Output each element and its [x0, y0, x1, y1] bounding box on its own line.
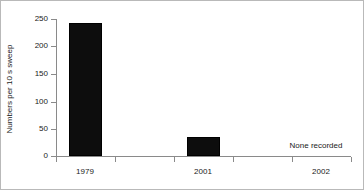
bar-1979	[69, 23, 102, 156]
y-axis-line	[56, 19, 57, 157]
x-tick-5	[351, 157, 352, 162]
y-tick-50	[51, 129, 56, 130]
y-tick-label-50: 50	[28, 125, 48, 133]
x-tick-4	[292, 157, 293, 162]
x-tick-label-2002: 2002	[312, 168, 330, 176]
y-tick-label-250: 250	[28, 15, 48, 23]
x-tick-0	[56, 157, 57, 162]
y-tick-100	[51, 102, 56, 103]
x-tick-label-1979: 1979	[76, 168, 94, 176]
bar-2001	[187, 137, 220, 156]
x-tick-3	[233, 157, 234, 162]
x-tick-label-2001: 2001	[194, 168, 212, 176]
y-tick-label-200: 200	[28, 42, 48, 50]
y-tick-label-150: 150	[28, 70, 48, 78]
x-tick-1	[115, 157, 116, 162]
y-axis-title: Numbers per 10 s sweep	[6, 45, 14, 134]
x-tick-2	[174, 157, 175, 162]
y-tick-label-100: 100	[28, 98, 48, 106]
y-tick-200	[51, 46, 56, 47]
bar-chart-figure: Numbers per 10 s sweep 250 200 150 100 5…	[0, 0, 364, 190]
y-tick-label-0: 0	[28, 152, 48, 160]
y-tick-150	[51, 74, 56, 75]
annotation-none-recorded: None recorded	[290, 142, 343, 150]
x-axis-line	[56, 156, 351, 157]
plot-area: Numbers per 10 s sweep 250 200 150 100 5…	[1, 1, 363, 189]
y-tick-250	[51, 19, 56, 20]
